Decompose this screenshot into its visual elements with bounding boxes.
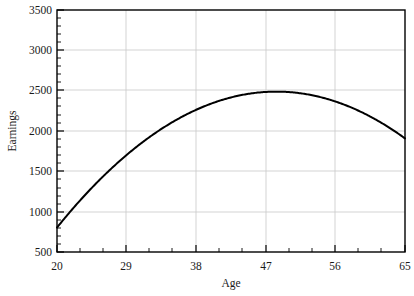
- y-tick-label-1500: 1500: [29, 165, 52, 177]
- y-gridlines: [57, 50, 405, 212]
- x-tick-labels: 20 29 38 47 56 65: [51, 260, 411, 272]
- y-tick-labels: 3500 3000 2500 2000 1500 1000 500: [29, 4, 52, 258]
- y-tick-label-1000: 1000: [29, 206, 52, 218]
- y-tick-label-3000: 3000: [29, 44, 52, 56]
- x-tick-label-65: 65: [399, 260, 411, 272]
- x-tick-label-38: 38: [190, 260, 202, 272]
- x-major-ticks: [57, 245, 405, 252]
- chart-svg: 3500 3000 2500 2000 1500 1000 500 20 29 …: [0, 0, 414, 296]
- earnings-curve: [57, 92, 405, 228]
- y-tick-label-3500: 3500: [29, 4, 52, 16]
- y-axis-title: Earnings: [6, 110, 19, 151]
- y-tick-label-2000: 2000: [29, 125, 52, 137]
- x-tick-label-20: 20: [51, 260, 63, 272]
- y-major-ticks: [57, 10, 64, 252]
- x-tick-label-47: 47: [260, 260, 272, 272]
- x-axis-title: Age: [221, 277, 240, 290]
- x-tick-label-56: 56: [329, 260, 341, 272]
- y-tick-label-2500: 2500: [29, 84, 52, 96]
- y-tick-label-500: 500: [35, 246, 53, 258]
- earnings-age-chart: 3500 3000 2500 2000 1500 1000 500 20 29 …: [0, 0, 414, 296]
- x-tick-label-29: 29: [120, 260, 132, 272]
